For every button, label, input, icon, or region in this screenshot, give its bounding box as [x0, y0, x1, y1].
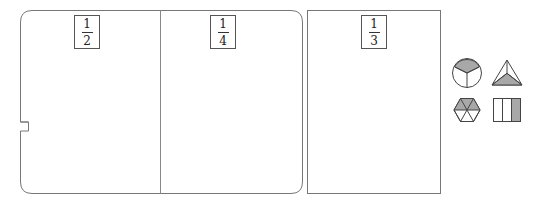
- fraction-numerator: 1: [370, 18, 378, 31]
- triangle-thirds-shape-icon[interactable]: [488, 56, 526, 92]
- shaded-upper-half: [454, 99, 480, 111]
- fraction-numerator: 1: [219, 18, 227, 31]
- fraction-numerator: 1: [83, 18, 91, 31]
- card-left-notch-icon: [21, 122, 29, 131]
- fraction-label-one-quarter[interactable]: 1 4: [210, 15, 236, 49]
- fraction-bar-icon: [82, 32, 93, 33]
- fraction-denominator: 4: [219, 34, 227, 47]
- fraction-worksheet-canvas: 1 2 1 4 1 3: [0, 0, 535, 204]
- fraction-denominator: 3: [370, 34, 378, 47]
- fraction-label-one-third[interactable]: 1 3: [361, 15, 387, 49]
- fraction-card-one-half[interactable]: [21, 11, 303, 194]
- fraction-bar-icon: [218, 32, 229, 33]
- fraction-label-one-half[interactable]: 1 2: [74, 15, 100, 49]
- fraction-denominator: 2: [83, 34, 91, 47]
- fraction-bar-icon: [369, 32, 380, 33]
- circle-thirds-shape-icon[interactable]: [450, 56, 486, 92]
- hexagon-sixths-shape-icon[interactable]: [450, 93, 486, 127]
- rectangle-thirds-shape-icon[interactable]: [490, 93, 526, 127]
- shaded-strip: [512, 99, 521, 122]
